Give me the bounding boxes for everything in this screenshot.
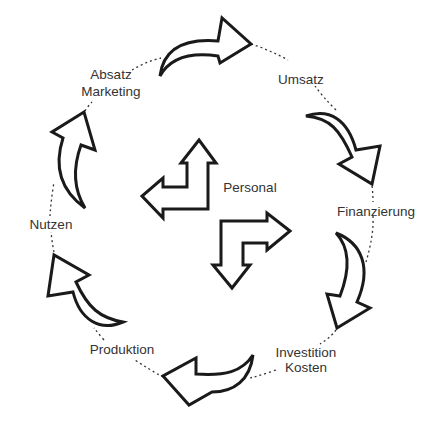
- node-label-produktion: Produktion: [90, 342, 155, 357]
- curved-arrow-up-icon: [52, 112, 95, 208]
- curved-arrow-down-left-icon: [327, 233, 370, 328]
- curved-arrow-down-right-icon: [306, 114, 380, 184]
- corner-arrow-right-down-icon: [213, 213, 290, 288]
- center-label-personal: Personal: [223, 180, 276, 195]
- node-label-absatz: Absatz: [90, 67, 132, 82]
- curved-arrow-right-icon: [160, 18, 251, 76]
- corner-arrow-up-left-icon: [142, 140, 216, 218]
- curved-arrow-left-icon: [163, 355, 253, 405]
- node-label-umsatz: Umsatz: [278, 72, 324, 87]
- node-label-kosten: Kosten: [285, 360, 327, 375]
- node-label-finanzierung: Finanzierung: [337, 204, 415, 219]
- curved-arrow-up-left-icon: [48, 255, 123, 325]
- node-label-nutzen: Nutzen: [30, 217, 73, 232]
- node-label-marketing: Marketing: [81, 84, 140, 99]
- business-cycle-diagram: Absatz Marketing Umsatz Finanzierung Inv…: [0, 0, 447, 434]
- node-label-investition: Investition: [276, 345, 337, 360]
